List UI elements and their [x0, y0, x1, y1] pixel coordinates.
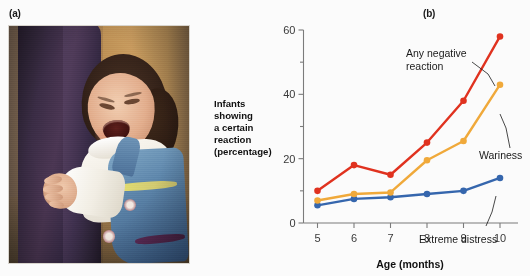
annotation-extreme-distress: Extreme distress	[419, 233, 497, 245]
panel-a-label: (a)	[9, 8, 21, 19]
x-axis-title: Age (months)	[376, 258, 444, 270]
series-line-wariness	[318, 85, 501, 201]
panel-b: (b) Infants showing a certain reaction (…	[210, 0, 530, 276]
data-point-wariness-month-10	[497, 81, 504, 88]
series-extreme-distress	[314, 175, 503, 209]
x-axis-ticks	[318, 223, 501, 228]
data-point-wariness-month-8	[424, 157, 431, 164]
leader-extreme-distress	[486, 196, 496, 226]
data-point-any-negative-reaction-month-5	[314, 188, 321, 195]
data-point-wariness-month-7	[387, 189, 394, 196]
annotation-any-negative-reaction-line2: reaction	[406, 60, 444, 72]
data-point-extreme-distress-month-10	[497, 175, 504, 182]
y-tick-label-0: 0	[289, 217, 295, 229]
data-point-wariness-month-5	[314, 197, 321, 204]
x-tick-label-7: 7	[387, 232, 393, 244]
data-point-any-negative-reaction-month-7	[387, 171, 394, 178]
annotation-any-negative-reaction-line1: Any negative	[406, 47, 467, 59]
line-chart: 0204060 5678910 Any negative reaction Wa…	[210, 0, 530, 276]
figure-root: (a)	[0, 0, 530, 276]
y-tick-label-20: 20	[283, 153, 295, 165]
x-tick-label-6: 6	[351, 232, 357, 244]
annotation-leaders	[472, 62, 510, 226]
series-wariness	[314, 81, 503, 203]
leader-wariness	[500, 114, 510, 148]
y-axis-ticks	[299, 30, 304, 223]
photo-vignette	[9, 26, 189, 263]
data-point-any-negative-reaction-month-8	[424, 139, 431, 146]
data-point-any-negative-reaction-month-9	[460, 97, 467, 104]
data-point-wariness-month-6	[351, 191, 358, 198]
x-tick-label-5: 5	[314, 232, 320, 244]
infant-photograph	[9, 26, 189, 263]
data-point-extreme-distress-month-9	[460, 188, 467, 195]
annotation-wariness: Wariness	[479, 149, 522, 161]
data-point-wariness-month-9	[460, 138, 467, 145]
panel-a: (a)	[0, 0, 210, 276]
y-axis-tick-labels: 0204060	[283, 24, 295, 229]
y-tick-label-60: 60	[283, 24, 295, 36]
series-line-extreme-distress	[318, 178, 501, 205]
data-point-extreme-distress-month-8	[424, 191, 431, 198]
data-point-any-negative-reaction-month-6	[351, 162, 358, 169]
data-point-any-negative-reaction-month-10	[497, 33, 504, 40]
y-tick-label-40: 40	[283, 88, 295, 100]
